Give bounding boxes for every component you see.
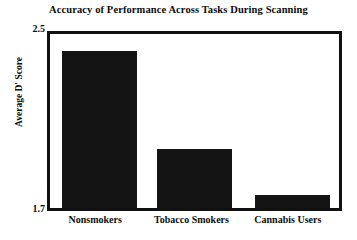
bar-nonsmokers [62, 51, 137, 208]
x-axis-label-cannabis-users: Cannabis Users [240, 214, 336, 225]
x-axis-tick-labels: NonsmokersTobacco SmokersCannabis Users [47, 214, 342, 234]
y-tick-label-top: 2.5 [15, 23, 45, 34]
y-tick-label-bottom: 1.7 [15, 203, 45, 214]
bar-tobacco-smokers [157, 149, 232, 208]
x-axis-label-tobacco-smokers: Tobacco Smokers [143, 214, 239, 225]
plot-frame [47, 31, 342, 211]
x-axis-label-nonsmokers: Nonsmokers [47, 214, 143, 225]
bar-cannabis-users [255, 195, 330, 208]
chart-title: Accuracy of Performance Across Tasks Dur… [0, 4, 357, 15]
plot-inner [50, 34, 339, 208]
y-axis-label: Average D' Score [14, 37, 24, 147]
figure-canvas: Accuracy of Performance Across Tasks Dur… [0, 0, 357, 240]
